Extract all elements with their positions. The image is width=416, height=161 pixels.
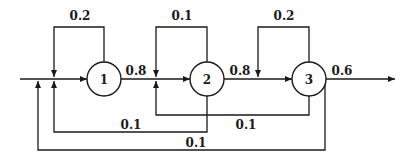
arrow-feedback-2-1-icon	[51, 81, 57, 88]
arrow-into-node-3-icon	[285, 76, 292, 82]
edge-1-2-label: 0.8	[126, 65, 147, 77]
feedback-3-2	[156, 81, 309, 115]
arrow-feedback-outer-icon	[35, 81, 41, 88]
output-label: 0.6	[332, 65, 353, 77]
flow-diagram: 1 2 3 0.2 0.1 0.2 0.8 0.8 0.6 0.1 0.1 0.…	[0, 0, 416, 161]
arrow-output-icon	[388, 76, 395, 82]
feedback-2-1-label: 0.1	[121, 119, 142, 131]
node-3-label: 3	[305, 74, 313, 86]
self-loop-3-label: 0.2	[274, 10, 295, 22]
feedback-3-1-label: 0.1	[186, 137, 207, 149]
node-1-label: 1	[100, 74, 108, 86]
arrow-self-loop-3-icon	[255, 70, 261, 77]
arrow-into-node-1-icon	[80, 76, 87, 82]
node-2-label: 2	[203, 74, 211, 86]
arrow-self-loop-1-icon	[51, 70, 57, 77]
edge-2-3-label: 0.8	[230, 65, 251, 77]
arrow-self-loop-2-icon	[153, 70, 159, 77]
self-loop-2-label: 0.1	[172, 10, 193, 22]
arrow-into-node-2-icon	[183, 76, 190, 82]
self-loop-1-label: 0.2	[70, 10, 91, 22]
arrow-feedback-3-2-icon	[153, 81, 159, 88]
feedback-3-2-label: 0.1	[236, 119, 257, 131]
